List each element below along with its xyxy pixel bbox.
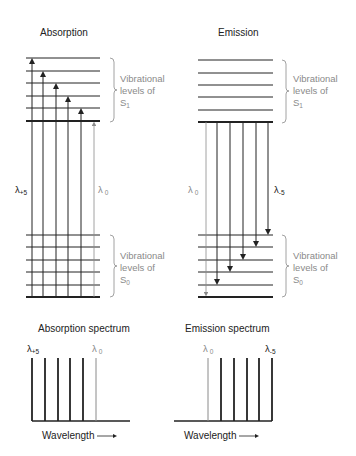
energy-level-diagram: Absorption Emission Vibrational levels o… bbox=[0, 0, 356, 456]
svg-text:Vibrational: Vibrational bbox=[120, 73, 165, 84]
absorption-spectrum-plot bbox=[32, 358, 130, 421]
label-abs-spectrum-lambda-plus5: λ+5 bbox=[27, 343, 40, 355]
label-absorption-s0: Vibrational levels of S0 bbox=[120, 250, 165, 286]
svg-text:Wavelength: Wavelength bbox=[42, 430, 94, 441]
emission-spectrum-xlabel: Wavelength bbox=[184, 430, 257, 441]
svg-text:Vibrational: Vibrational bbox=[293, 73, 338, 84]
emission-spectrum-title: Emission spectrum bbox=[185, 323, 269, 334]
svg-text:levels of: levels of bbox=[293, 85, 328, 96]
svg-text:S1: S1 bbox=[120, 97, 130, 109]
absorption-energy-levels bbox=[26, 58, 100, 297]
label-emission-s0: Vibrational levels of S0 bbox=[293, 250, 338, 286]
absorption-spectrum-title: Absorption spectrum bbox=[38, 323, 130, 334]
label-abs-spectrum-lambda-0: λ0 bbox=[92, 343, 103, 355]
svg-text:S1: S1 bbox=[293, 97, 303, 109]
svg-text:levels of: levels of bbox=[120, 85, 155, 96]
label-emi-spectrum-lambda-0: λ0 bbox=[203, 343, 214, 355]
label-absorption-lambda-0: λ0 bbox=[98, 184, 109, 196]
label-emission-s1: Vibrational levels of S1 bbox=[293, 73, 338, 109]
emission-title: Emission bbox=[218, 27, 259, 38]
absorption-title: Absorption bbox=[40, 27, 88, 38]
svg-text:Vibrational: Vibrational bbox=[120, 250, 165, 261]
label-absorption-lambda-plus5: λ+5 bbox=[15, 184, 28, 196]
label-emission-lambda-minus5: λ-5 bbox=[274, 184, 285, 196]
svg-text:S0: S0 bbox=[293, 274, 303, 286]
emission-energy-levels bbox=[198, 60, 273, 297]
absorption-spectrum-xlabel: Wavelength bbox=[42, 430, 115, 441]
brace-emission-s0 bbox=[282, 235, 289, 297]
brace-absorption-s1 bbox=[110, 58, 117, 122]
label-absorption-s1: Vibrational levels of S1 bbox=[120, 73, 165, 109]
brace-emission-s1 bbox=[282, 60, 289, 123]
svg-text:S0: S0 bbox=[120, 274, 130, 286]
emission-transition-arrows bbox=[206, 122, 268, 294]
brace-absorption-s0 bbox=[110, 235, 117, 297]
svg-text:levels of: levels of bbox=[120, 262, 155, 273]
label-emission-lambda-0: λ0 bbox=[188, 184, 199, 196]
svg-text:Wavelength: Wavelength bbox=[184, 430, 236, 441]
svg-text:Vibrational: Vibrational bbox=[293, 250, 338, 261]
emission-spectrum-plot bbox=[174, 358, 272, 421]
label-emi-spectrum-lambda-minus5: λ-5 bbox=[265, 343, 276, 355]
svg-text:levels of: levels of bbox=[293, 262, 328, 273]
